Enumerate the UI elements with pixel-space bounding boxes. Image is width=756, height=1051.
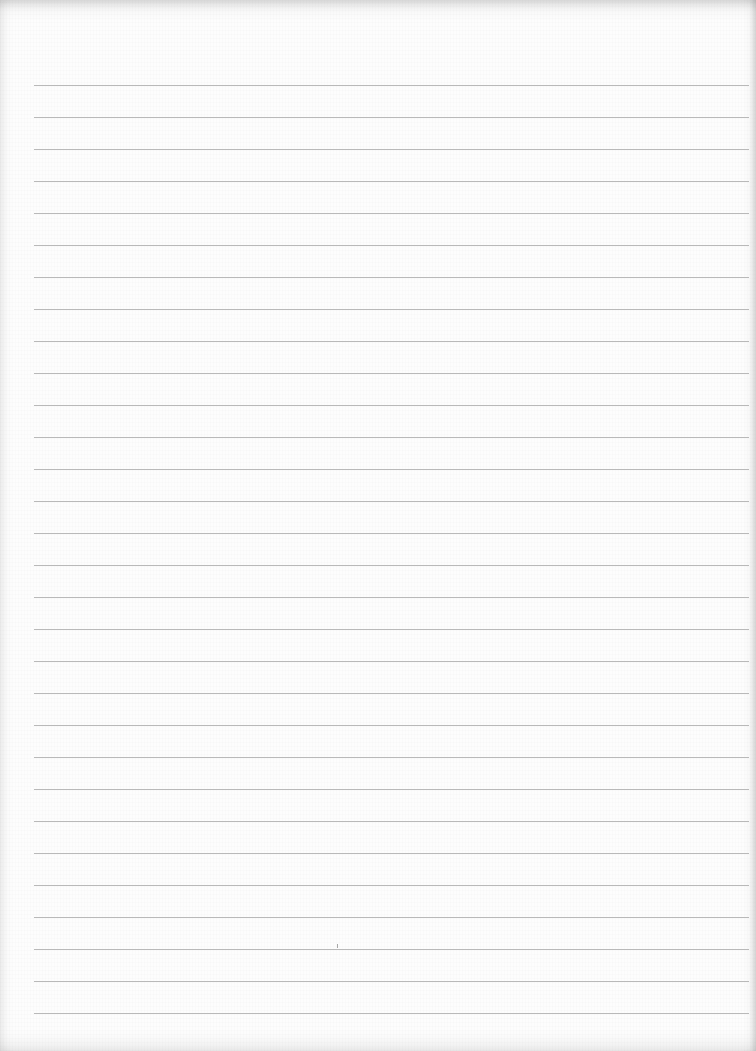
ruled-line	[34, 533, 749, 534]
lined-paper-sheet	[0, 0, 756, 1051]
stray-mark	[337, 944, 338, 948]
ruled-line	[34, 885, 749, 886]
ruled-line	[34, 853, 749, 854]
ruled-line	[34, 341, 749, 342]
ruled-line	[34, 725, 749, 726]
paper-texture	[0, 0, 756, 1051]
ruled-line	[34, 117, 749, 118]
ruled-line	[34, 821, 749, 822]
ruled-line	[34, 661, 749, 662]
ruled-line	[34, 437, 749, 438]
ruled-line	[34, 917, 749, 918]
ruled-line	[34, 213, 749, 214]
right-edge-shadow	[750, 0, 756, 1051]
ruled-line	[34, 149, 749, 150]
ruled-line	[34, 85, 749, 86]
ruled-line	[34, 277, 749, 278]
ruled-line	[34, 501, 749, 502]
ruled-line	[34, 693, 749, 694]
ruled-line	[34, 469, 749, 470]
ruled-line	[34, 789, 749, 790]
ruled-line	[34, 405, 749, 406]
ruled-line	[34, 949, 749, 950]
ruled-line	[34, 597, 749, 598]
ruled-line	[34, 245, 749, 246]
ruled-line	[34, 181, 749, 182]
ruled-line	[34, 565, 749, 566]
ruled-line	[34, 309, 749, 310]
ruled-line	[34, 629, 749, 630]
ruled-line	[34, 373, 749, 374]
ruled-line	[34, 757, 749, 758]
ruled-line	[34, 981, 749, 982]
top-edge-shadow	[0, 0, 756, 10]
ruled-line	[34, 1013, 749, 1014]
